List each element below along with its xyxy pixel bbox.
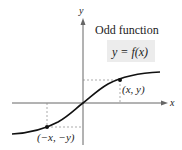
- y-axis-label: y: [79, 6, 83, 16]
- x-axis-label: x: [170, 98, 174, 108]
- x-axis-arrow-icon: [161, 101, 168, 106]
- equation-label: y = f(x): [112, 46, 148, 58]
- diagram-title: Odd function: [95, 24, 159, 36]
- point-positive: [118, 78, 122, 82]
- point-label-positive: (x, y): [122, 84, 145, 95]
- y-axis-arrow-icon: [81, 18, 86, 25]
- point-label-negative: (−x, −y): [37, 132, 74, 143]
- point-negative: [45, 125, 49, 129]
